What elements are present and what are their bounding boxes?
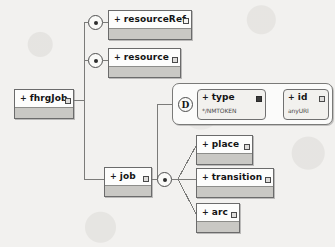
- node-job-header: + job: [105, 168, 151, 185]
- occurrence-plus-icon: +: [202, 141, 209, 149]
- connector-resourceref[interactable]: [88, 15, 103, 30]
- wire-to-place: [178, 146, 196, 179]
- sequence-dot-icon: [163, 178, 167, 182]
- node-resource-header: + resource: [109, 49, 180, 66]
- attribute-type[interactable]: + type */NMTOKEN: [197, 89, 266, 120]
- node-arc-header: + arc: [197, 204, 239, 221]
- node-badge-icon: [231, 212, 237, 218]
- node-badge-icon: [143, 176, 149, 182]
- occurrence-plus-icon: +: [20, 95, 27, 103]
- node-arc-body: [197, 221, 239, 232]
- node-transition-label: transition: [212, 173, 263, 182]
- node-place-body: [197, 153, 252, 164]
- attribute-id-datatype: anyURI: [284, 105, 328, 116]
- node-badge-icon: [183, 18, 189, 24]
- node-resourceref-header: + resourceRef: [109, 11, 191, 28]
- node-badge-icon: [265, 177, 271, 183]
- attribute-id-header: + id: [284, 90, 328, 105]
- occurrence-plus-icon: +: [202, 94, 209, 102]
- node-resourceref-label: resourceRef: [124, 15, 186, 24]
- node-resource-body: [109, 66, 180, 77]
- attribute-type-header: + type: [198, 90, 265, 105]
- node-place-header: + place: [197, 136, 252, 153]
- node-job[interactable]: + job: [104, 167, 152, 197]
- node-resource[interactable]: + resource: [108, 48, 181, 78]
- attribute-id-label: id: [298, 93, 308, 102]
- occurrence-plus-icon: +: [114, 54, 121, 62]
- node-fhrgjob[interactable]: + fhrgJob: [14, 89, 74, 119]
- node-job-label: job: [120, 172, 136, 181]
- wire-job-to-attribute-group: [157, 104, 172, 179]
- sequence-dot-icon: [94, 21, 98, 25]
- attribute-group-d-icon: D: [178, 97, 193, 112]
- node-badge-icon: [244, 144, 250, 150]
- node-fhrgjob-label: fhrgJob: [30, 94, 68, 103]
- node-resourceref-body: [109, 28, 191, 39]
- schema-diagram-canvas: + fhrgJob + resourceRef + resource D: [0, 0, 335, 247]
- occurrence-plus-icon: +: [202, 174, 209, 182]
- occurrence-plus-icon: +: [202, 209, 209, 217]
- node-arc[interactable]: + arc: [196, 203, 240, 233]
- node-badge-icon: [172, 57, 178, 63]
- wire-to-arc: [178, 179, 196, 214]
- occurrence-plus-icon: +: [110, 173, 117, 181]
- attribute-badge-icon: [319, 96, 325, 102]
- occurrence-plus-icon: +: [114, 16, 121, 24]
- attribute-type-datatype: */NMTOKEN: [198, 105, 265, 116]
- sequence-dot-icon: [94, 59, 98, 63]
- node-place[interactable]: + place: [196, 135, 253, 165]
- node-fhrgjob-body: [15, 107, 73, 118]
- node-resourceref[interactable]: + resourceRef: [108, 10, 192, 40]
- occurrence-plus-icon: +: [288, 94, 295, 102]
- node-job-body: [105, 185, 151, 196]
- node-transition-header: + transition: [197, 169, 273, 186]
- connector-resource[interactable]: [88, 53, 103, 68]
- node-transition[interactable]: + transition: [196, 168, 274, 198]
- node-resource-label: resource: [124, 53, 169, 62]
- connector-job-children[interactable]: [157, 172, 172, 187]
- node-transition-body: [197, 186, 273, 197]
- attribute-id[interactable]: + id anyURI: [283, 89, 329, 120]
- node-fhrgjob-header: + fhrgJob: [15, 90, 73, 107]
- node-place-label: place: [212, 140, 240, 149]
- node-arc-label: arc: [212, 208, 228, 217]
- node-badge-icon: [65, 98, 71, 104]
- attribute-group-container: D + type */NMTOKEN + id anyURI: [172, 83, 333, 125]
- attribute-badge-icon: [256, 96, 262, 102]
- attribute-type-label: type: [212, 93, 235, 102]
